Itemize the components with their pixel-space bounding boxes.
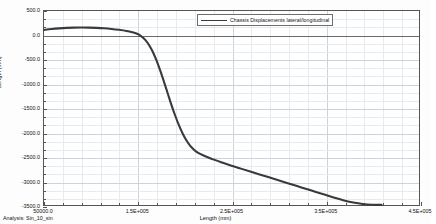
tick-y-major bbox=[43, 207, 47, 208]
y-axis-tick-label: -500.0 bbox=[25, 56, 40, 62]
y-axis-tick-label: -2500.0 bbox=[22, 154, 40, 160]
plot-area bbox=[43, 10, 420, 206]
legend-label-chassis-displacements: Chassis Displacements lateral/longitudin… bbox=[230, 17, 329, 23]
x-axis-tick-label: 1.5E+005 bbox=[115, 208, 159, 214]
y-axis-tick-label: -1500.0 bbox=[22, 105, 40, 111]
y-axis-tick-label: -1000.0 bbox=[22, 81, 40, 87]
x-axis-title: Length (mm) bbox=[0, 215, 431, 221]
chart-legend[interactable]: Chassis Displacements lateral/longitudin… bbox=[197, 14, 333, 26]
legend-swatch-chassis-displacements bbox=[201, 20, 227, 21]
x-axis-tick-label: 3.5E+005 bbox=[304, 208, 348, 214]
y-axis-tick-label: 500.0 bbox=[27, 7, 41, 13]
y-axis-tick-label: -3500.0 bbox=[22, 203, 40, 209]
y-axis-title: Length (mm) bbox=[0, 56, 2, 88]
y-axis-tick-label: -2000.0 bbox=[22, 130, 40, 136]
x-axis-tick-label: 50000.0 bbox=[21, 208, 65, 214]
tick-x-major bbox=[421, 202, 422, 206]
x-axis-tick-label: 2.5E+005 bbox=[210, 208, 254, 214]
y-axis-tick-label: 0.0 bbox=[33, 32, 41, 38]
y-axis-tick-label: -3000.0 bbox=[22, 179, 40, 185]
x-axis-tick-label: 4.5E+005 bbox=[398, 208, 436, 214]
series-curve-layer bbox=[44, 11, 419, 205]
series-line-chassis-displacements bbox=[44, 27, 382, 204]
analysis-label: Analysis: Sin_10_sin bbox=[3, 215, 53, 221]
